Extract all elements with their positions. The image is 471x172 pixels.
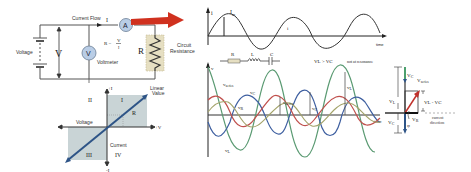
quadrant-2-label: II [88,97,92,103]
component-l-label: L [251,52,254,57]
v-series-label-2: vseries [283,100,294,106]
linear-label-line2: Value [152,90,165,96]
vl-minus-vc-label: VL - VC [424,100,442,105]
svg-text:V: V [86,50,91,57]
v-l-phasor-label: VL [389,99,396,105]
v-c-arrow-icon [403,79,407,83]
v-c-label-2: vC [312,106,318,112]
current-axis-label: Current [110,142,127,148]
time-label: time [376,42,384,47]
iv-characteristic-graph: +I -I -V +V I II III IV Linear Value R V… [55,82,175,172]
resistor-symbol: R [138,46,144,56]
v-c-bottom-arrow-icon [403,129,407,134]
component-r-label: R [231,52,235,57]
plus-v-label: +V [155,125,162,130]
v-c-label: vC [250,90,256,96]
v-l-bracket [394,67,402,109]
iv-svg: +I -I -V +V I II III IV Linear Value R V… [55,82,175,172]
voltage-axis-label: Voltage [76,119,93,125]
quadrant-1-label: I [121,97,123,103]
v-l-label-2: vL [347,85,353,91]
v-c-bottom-label: VC [388,120,395,126]
inductor-icon [248,59,260,62]
dc-circuit-diagram: Voltage V Current Flow I A V Voltmeter R… [0,0,200,85]
ohms-law-formula: R = V I [104,38,121,50]
current-arrow-icon [97,23,102,27]
phasor-svg: VC Vseries VL VL - VC VR φ VC current di… [385,65,471,150]
current-sine-curve [208,14,380,49]
v-axis-label: v [211,66,214,71]
phi-label: φ [407,123,410,128]
time-arrow-icon [382,34,387,38]
current-direction-label-2: direction [430,120,444,125]
component-c-label: C [270,52,274,57]
current-symbol: I [106,17,108,23]
voltage-label: Voltage [16,49,33,55]
v-l-label: vL [225,148,231,154]
minus-i-label: -I [106,168,110,172]
svg-text:I: I [118,45,120,50]
battery-icon [33,38,47,67]
v-c-bracket [394,113,402,133]
resistance-label-line2: Resistance [170,48,195,54]
rlc-voltage-waveforms: v time vseries vC vR vseries vC vL vL [200,62,385,172]
svg-text:A: A [123,22,128,29]
v-series-phasor-label: Vseries [417,78,429,84]
voltmeter-icon: V [82,46,96,60]
slope-r-label: R [132,110,136,116]
phasor-diagram: VC Vseries VL VL - VC VR φ VC current di… [385,65,471,150]
rlc-wave-svg: v time vseries vC vR vseries vC vL vL [200,62,385,172]
current-flow-label: Current Flow [72,15,101,21]
svg-text:V: V [117,38,121,43]
voltmeter-label: Voltmeter [97,59,118,65]
i-axis-label: i [211,10,213,16]
svg-text:R =: R = [104,41,112,46]
quadrant-3-label: III [86,152,92,158]
current-waveform: i Im i time [200,5,390,53]
red-arrow-icon [131,12,184,28]
curve-i-label: i [287,26,289,31]
current-wave-svg: i Im i time [200,5,390,53]
voltage-symbol: V [55,48,63,59]
v-r-phasor-label: VR [412,117,419,123]
axis-arrow-icon [206,7,210,13]
v-c-curve [208,90,380,136]
ammeter-icon: A [120,19,133,32]
quadrant-4-label: IV [115,152,122,158]
v-series-label: vseries [223,82,234,88]
plus-i-label: +I [108,86,113,91]
v-series-curve [208,101,380,127]
v-c-top-label: VC [407,73,414,79]
circuit-svg: Voltage V Current Flow I A V Voltmeter R… [0,0,200,85]
peak-label: Im [230,9,236,17]
v-r-label: vR [238,105,244,111]
